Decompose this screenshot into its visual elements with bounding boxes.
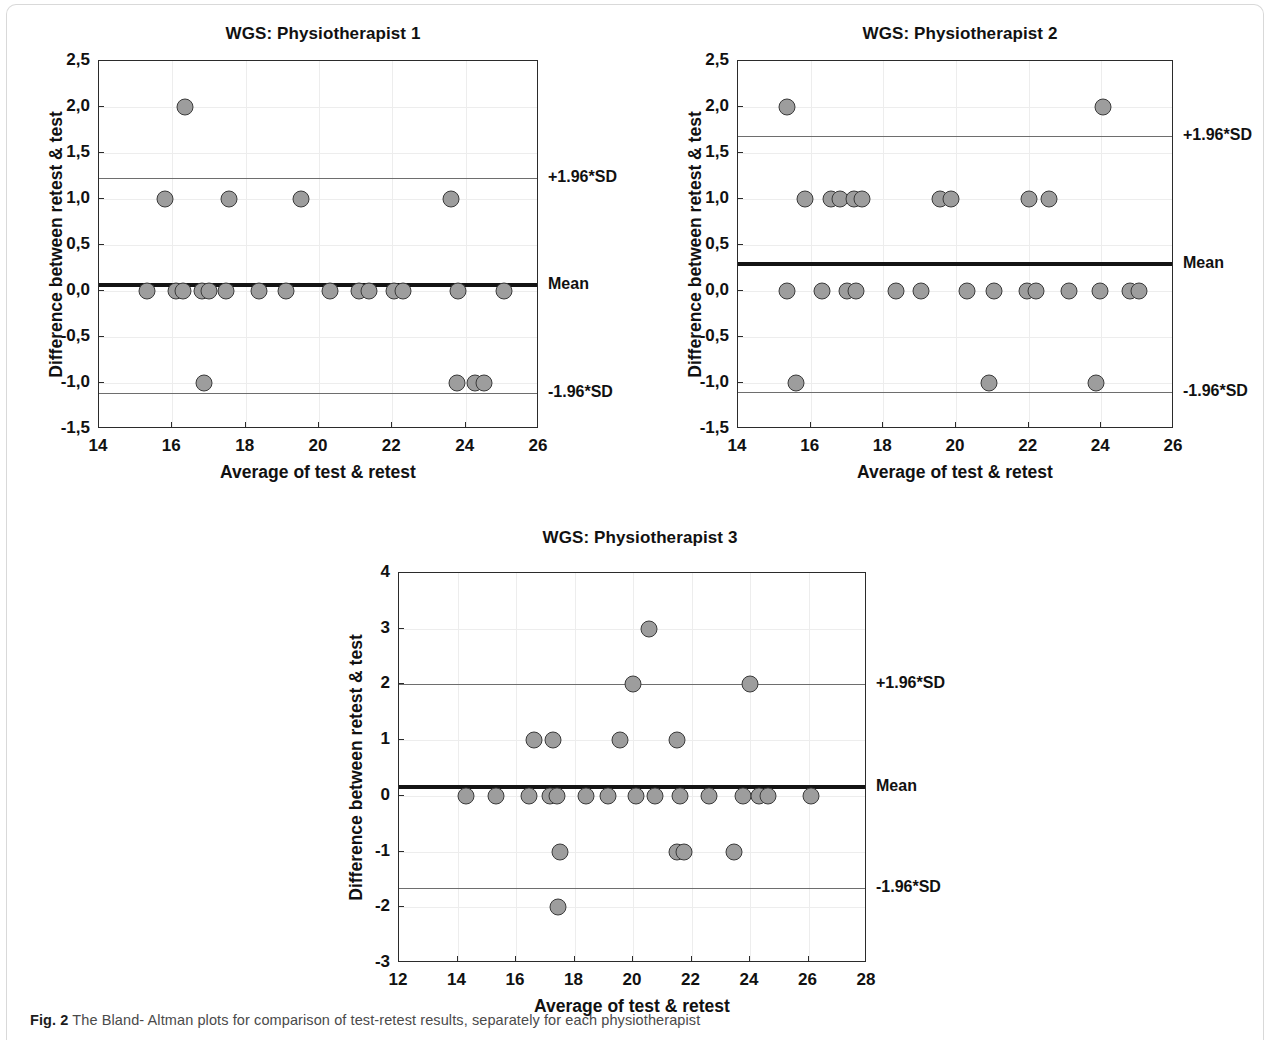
- data-point: [980, 375, 997, 392]
- data-point: [448, 375, 465, 392]
- data-point: [742, 676, 759, 693]
- chart-title: WGS: Physiotherapist 3: [330, 528, 950, 548]
- y-axis-label: Difference between retest & test: [346, 573, 367, 963]
- plot-area: [398, 572, 866, 962]
- data-point: [476, 375, 493, 392]
- gridline-vertical: [750, 573, 751, 961]
- gridline-horizontal: [399, 629, 865, 630]
- x-axis-tick-mark: [515, 956, 516, 962]
- x-axis-tick-mark: [955, 422, 956, 428]
- data-point: [986, 283, 1003, 300]
- x-axis-tick-label: 14: [728, 436, 747, 456]
- y-axis-tick-mark: [98, 244, 104, 245]
- y-axis-tick-label: -1: [375, 841, 390, 861]
- y-axis-label: Difference between retest & test: [685, 61, 706, 429]
- data-point: [322, 283, 339, 300]
- x-axis-tick-label: 16: [162, 436, 181, 456]
- mean-label: Mean: [1183, 254, 1224, 272]
- gridline-vertical: [883, 61, 884, 427]
- y-axis-tick-mark: [737, 382, 743, 383]
- data-point: [625, 676, 642, 693]
- data-point: [1091, 283, 1108, 300]
- data-point: [701, 787, 718, 804]
- data-point: [1060, 283, 1077, 300]
- y-axis-tick-label: -2: [375, 896, 390, 916]
- y-axis-tick-label: 1,0: [66, 188, 90, 208]
- gridline-vertical: [692, 573, 693, 961]
- y-axis-tick-label: 1,0: [705, 188, 729, 208]
- y-axis-tick-mark: [398, 906, 404, 907]
- upper-loa-line: [99, 178, 537, 179]
- x-axis-tick-mark: [1028, 422, 1029, 428]
- x-axis-tick-label: 26: [798, 970, 817, 990]
- data-point: [450, 283, 467, 300]
- x-axis-tick-label: 12: [389, 970, 408, 990]
- chart-title: WGS: Physiotherapist 1: [18, 24, 628, 44]
- gridline-horizontal: [99, 245, 537, 246]
- y-axis-tick-label: -3: [375, 952, 390, 972]
- gridline-vertical: [956, 61, 957, 427]
- data-point: [548, 787, 565, 804]
- panel-physiotherapist-2: WGS: Physiotherapist 2-1,5-1,0-0,50,00,5…: [655, 24, 1265, 494]
- x-axis-tick-mark: [318, 422, 319, 428]
- data-point: [813, 283, 830, 300]
- y-axis-tick-mark: [737, 244, 743, 245]
- data-point: [779, 99, 796, 116]
- figure-caption: Fig. 2 The Bland- Altman plots for compa…: [30, 1012, 700, 1028]
- gridline-horizontal: [738, 245, 1172, 246]
- y-axis-tick-label: 2: [381, 673, 390, 693]
- gridline-horizontal: [738, 153, 1172, 154]
- x-axis-tick-label: 20: [946, 436, 965, 456]
- gridline-horizontal: [399, 852, 865, 853]
- x-axis-tick-label: 22: [681, 970, 700, 990]
- data-point: [779, 283, 796, 300]
- data-point: [797, 191, 814, 208]
- lower-loa-label: -1.96*SD: [548, 383, 613, 401]
- data-point: [525, 732, 542, 749]
- gridline-vertical: [633, 573, 634, 961]
- data-point: [913, 283, 930, 300]
- lower-loa-line: [738, 392, 1172, 393]
- lower-loa-label: -1.96*SD: [1183, 382, 1248, 400]
- x-axis-tick-label: 14: [89, 436, 108, 456]
- upper-loa-line: [738, 136, 1172, 137]
- y-axis-tick-mark: [98, 382, 104, 383]
- gridline-vertical: [466, 61, 467, 427]
- y-axis-tick-label: 1,5: [66, 142, 90, 162]
- y-axis-tick-mark: [398, 739, 404, 740]
- x-axis-tick-label: 24: [740, 970, 759, 990]
- data-point: [627, 787, 644, 804]
- x-axis-tick-mark: [457, 956, 458, 962]
- mean-line: [738, 262, 1172, 266]
- gridline-horizontal: [738, 337, 1172, 338]
- y-axis-tick-mark: [737, 106, 743, 107]
- x-axis-tick-label: 26: [529, 436, 548, 456]
- data-point: [278, 283, 295, 300]
- y-axis-tick-mark: [398, 628, 404, 629]
- x-axis-tick-mark: [1100, 422, 1101, 428]
- x-axis-tick-mark: [749, 956, 750, 962]
- x-axis-tick-label: 18: [235, 436, 254, 456]
- gridline-horizontal: [399, 740, 865, 741]
- data-point: [487, 787, 504, 804]
- y-axis-tick-label: 0,5: [66, 234, 90, 254]
- y-axis-tick-label: 1,5: [705, 142, 729, 162]
- data-point: [550, 899, 567, 916]
- mean-label: Mean: [548, 275, 589, 293]
- gridline-vertical: [246, 61, 247, 427]
- gridline-vertical: [392, 61, 393, 427]
- gridline-vertical: [811, 61, 812, 427]
- x-axis-label: Average of test & retest: [98, 462, 538, 483]
- data-point: [646, 787, 663, 804]
- lower-loa-line: [399, 888, 865, 889]
- x-axis-tick-label: 24: [455, 436, 474, 456]
- gridline-horizontal: [99, 107, 537, 108]
- chart-title: WGS: Physiotherapist 2: [655, 24, 1265, 44]
- data-point: [544, 732, 561, 749]
- x-axis-tick-mark: [808, 956, 809, 962]
- x-axis-tick-label: 18: [564, 970, 583, 990]
- x-axis-tick-mark: [882, 422, 883, 428]
- data-point: [138, 283, 155, 300]
- x-axis-tick-mark: [465, 422, 466, 428]
- data-point: [668, 732, 685, 749]
